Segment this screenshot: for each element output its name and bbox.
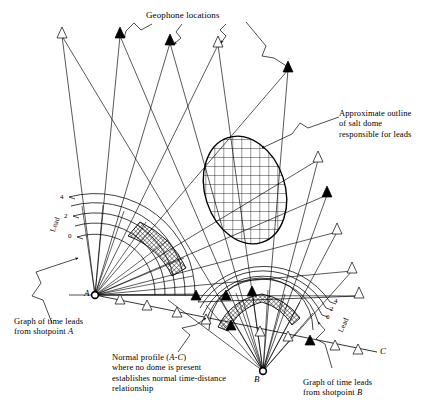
geophone-locations-label: Geophone locations — [146, 10, 220, 21]
leader-graph-a — [32, 258, 78, 323]
shotpoint-a-label: A — [84, 288, 90, 298]
leader-geophone-3 — [220, 24, 226, 43]
lead-anomaly-region-a — [128, 222, 186, 276]
lead-b-tick-4: 4 — [334, 297, 338, 305]
lead-a-tick-2: 2 — [64, 212, 68, 220]
normal-profile-label-group: Normal profile (A-C) where no dome is pr… — [112, 352, 226, 393]
normal-profile-line1: Normal profile (A-C) — [112, 352, 226, 362]
graph-a-label-line1: Graph of time leads — [14, 316, 83, 326]
lead-graph-shotpoint-a — [69, 194, 197, 295]
salt-dome-label-line1: Approximate outline — [339, 108, 411, 118]
normal-profile-line1-post: ) — [183, 352, 186, 362]
graph-b-label-point: B — [357, 387, 362, 397]
salt-dome-label-group: Approximate outline of salt dome respons… — [339, 108, 411, 139]
normal-profile-line2: where no dome is present — [112, 362, 226, 372]
graph-b-label-line2: from shotpoint B — [303, 387, 372, 397]
lead-b-tick-2: 2 — [330, 305, 334, 313]
graph-b-label-line1: Graph of time leads — [303, 377, 372, 387]
normal-profile-line1-ital: A-C — [169, 352, 183, 362]
diagram-canvas — [0, 0, 444, 411]
leader-geophone-2 — [174, 24, 182, 44]
lead-b-tick-0: 0 — [326, 313, 330, 321]
salt-dome-label-line3: responsible for leads — [339, 129, 411, 139]
salt-dome-label-line2: of salt dome — [339, 118, 411, 128]
lead-a-tick-4: 4 — [60, 193, 64, 201]
normal-profile-line1-pre: Normal profile ( — [112, 352, 169, 362]
salt-dome-outline — [190, 125, 300, 254]
shotpoint-b-label: B — [254, 374, 260, 384]
graph-a-label-point: A — [68, 326, 73, 336]
normal-profile-line4: relationship — [112, 383, 226, 393]
graph-a-label-line2: from shotpoint A — [14, 326, 83, 336]
leader-geophone-1 — [124, 23, 152, 38]
lead-a-tick-0: 0 — [68, 232, 72, 240]
normal-profile-line3: establishes normal time-distance — [112, 373, 226, 383]
graph-b-label-group: Graph of time leads from shotpoint B — [303, 377, 372, 398]
graph-b-label-line2-text: from shotpoint — [303, 387, 357, 397]
endpoint-c-label: C — [380, 346, 386, 356]
graph-a-label-line2-text: from shotpoint — [14, 326, 68, 336]
leader-graph-b — [316, 322, 332, 368]
leader-geophone-4 — [246, 22, 288, 67]
graph-a-label-group: Graph of time leads from shotpoint A — [14, 316, 83, 337]
fan-shooting-diagram: Geophone locations Approximate outline o… — [0, 0, 444, 411]
leader-salt-dome — [262, 117, 339, 148]
